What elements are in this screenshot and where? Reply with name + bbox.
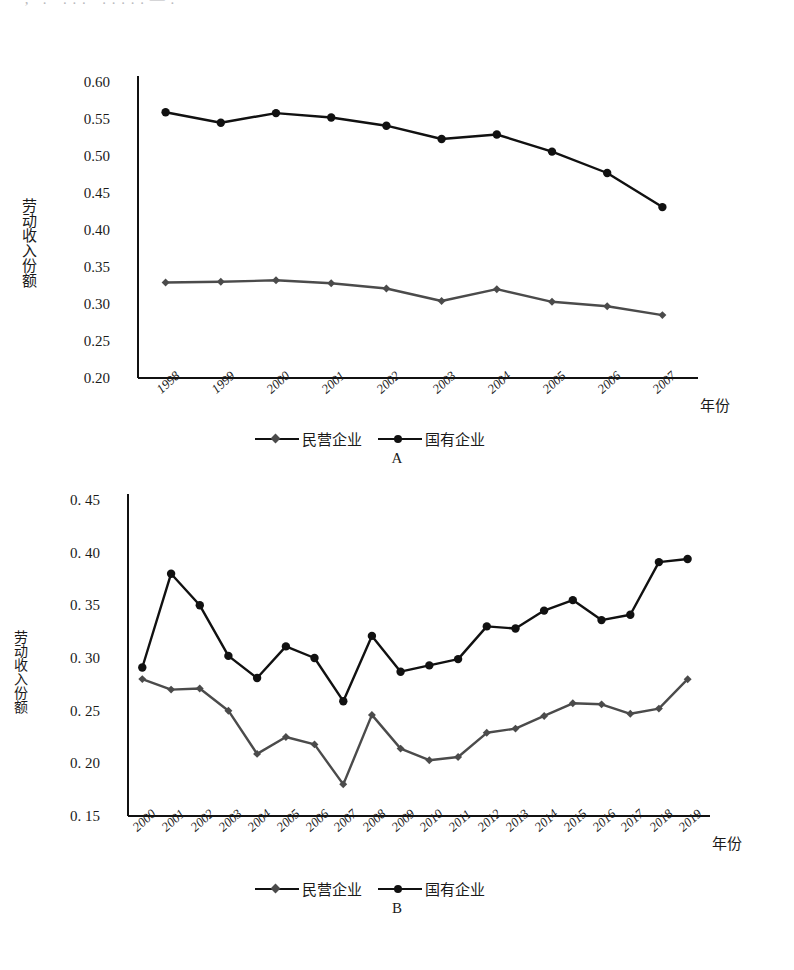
data-point-diamond — [167, 686, 175, 694]
legend-item: 民营企业 — [255, 428, 362, 449]
legend-b: 民营企业国有企业 — [255, 878, 485, 899]
data-point-circle — [437, 135, 445, 143]
data-point-diamond — [327, 279, 335, 287]
legend-circle-marker-icon — [378, 433, 422, 445]
data-point-circle — [511, 624, 519, 632]
data-point-diamond — [548, 298, 556, 306]
data-point-diamond — [138, 675, 146, 683]
data-point-circle — [493, 130, 501, 138]
data-point-circle — [683, 555, 691, 563]
x-axis-title-b: 年份 — [712, 832, 742, 853]
data-point-diamond — [540, 712, 548, 720]
chart-lines-b — [0, 480, 794, 846]
data-point-diamond — [493, 285, 501, 293]
data-point-diamond — [603, 302, 611, 310]
data-point-diamond — [272, 276, 280, 284]
data-point-diamond — [438, 297, 446, 305]
data-point-diamond — [626, 710, 634, 718]
data-point-circle — [454, 655, 462, 663]
chart-panel-a: 劳动收入份额 0.600.550.500.450.400.350.300.250… — [0, 30, 794, 480]
data-point-circle — [483, 622, 491, 630]
data-point-diamond — [162, 279, 170, 287]
series-line — [166, 112, 663, 207]
data-point-circle — [272, 109, 280, 117]
data-point-circle — [626, 611, 634, 619]
data-point-circle — [569, 596, 577, 604]
data-point-circle — [597, 616, 605, 624]
legend-label: 民营企业 — [302, 428, 362, 449]
series-line — [142, 559, 687, 701]
data-point-circle — [310, 654, 318, 662]
legend-item: 国有企业 — [378, 878, 485, 899]
data-point-circle — [655, 558, 663, 566]
panel-label-b: B — [0, 900, 794, 917]
data-point-diamond — [382, 285, 390, 293]
legend-item: 民营企业 — [255, 878, 362, 899]
data-point-diamond — [658, 311, 666, 319]
series-line — [142, 679, 687, 784]
data-point-circle — [368, 632, 376, 640]
legend-label: 民营企业 — [302, 878, 362, 899]
legend-item: 国有企业 — [378, 428, 485, 449]
legend-circle-marker-icon — [378, 883, 422, 895]
scan-artifact-text: · , ' . · . . . · . . . . . — . — [14, 0, 344, 7]
data-point-circle — [658, 203, 666, 211]
data-point-circle — [327, 113, 335, 121]
panel-label-a: A — [0, 450, 794, 467]
data-point-circle — [382, 122, 390, 130]
data-point-circle — [603, 169, 611, 177]
data-point-circle — [217, 119, 225, 127]
data-point-circle — [196, 601, 204, 609]
data-point-diamond — [217, 278, 225, 286]
series-line — [166, 280, 663, 315]
data-point-circle — [138, 663, 146, 671]
data-point-diamond — [598, 700, 606, 708]
data-point-circle — [282, 642, 290, 650]
legend-a: 民营企业国有企业 — [255, 428, 485, 449]
data-point-circle — [161, 108, 169, 116]
data-point-circle — [253, 674, 261, 682]
data-point-circle — [540, 606, 548, 614]
data-point-diamond — [425, 756, 433, 764]
data-point-diamond — [569, 699, 577, 707]
data-point-circle — [224, 652, 232, 660]
x-axis-title-a: 年份 — [700, 394, 730, 415]
chart-panel-b: 劳动收入份额 0. 450. 400. 350. 300. 250. 200. … — [0, 480, 794, 960]
data-point-circle — [167, 570, 175, 578]
data-point-circle — [425, 661, 433, 669]
legend-diamond-marker-icon — [255, 433, 299, 445]
legend-diamond-marker-icon — [255, 883, 299, 895]
legend-label: 国有企业 — [425, 428, 485, 449]
data-point-circle — [396, 668, 404, 676]
data-point-circle — [548, 147, 556, 155]
data-point-circle — [339, 697, 347, 705]
legend-label: 国有企业 — [425, 878, 485, 899]
chart-lines-a — [0, 30, 794, 408]
figure-page: · , ' . · . . . · . . . . . — . 劳动收入份额 0… — [0, 0, 794, 970]
data-point-diamond — [512, 725, 520, 733]
